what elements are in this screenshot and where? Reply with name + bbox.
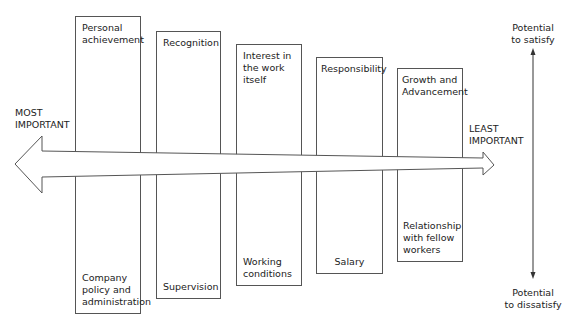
importance-arrow-icon bbox=[15, 136, 494, 193]
most-important-label: MOST IMPORTANT bbox=[15, 107, 70, 131]
line: Potential bbox=[503, 22, 563, 34]
potential-to-dissatisfy-label: Potential to dissatisfy bbox=[498, 287, 568, 311]
line: MOST bbox=[15, 107, 70, 119]
potential-to-satisfy-label: Potential to satisfy bbox=[503, 22, 563, 46]
least-important-label: LEAST IMPORTANT bbox=[469, 123, 524, 147]
arrows-layer bbox=[0, 0, 568, 323]
line: LEAST bbox=[469, 123, 524, 135]
line: to satisfy bbox=[503, 34, 563, 46]
arrow-up-icon bbox=[531, 48, 536, 55]
line: IMPORTANT bbox=[469, 135, 524, 147]
line: IMPORTANT bbox=[15, 119, 70, 131]
line: to dissatisfy bbox=[498, 299, 568, 311]
arrow-down-icon bbox=[531, 272, 536, 279]
line: Potential bbox=[498, 287, 568, 299]
